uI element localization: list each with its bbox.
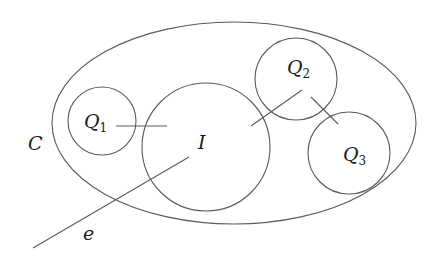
label-q2: Q2	[287, 56, 310, 81]
circle-q2	[255, 38, 337, 120]
label-q1-main: Q	[84, 110, 100, 132]
label-e: e	[83, 222, 94, 244]
line-e	[33, 157, 189, 248]
label-c: C	[28, 132, 43, 154]
label-q2-main: Q	[287, 56, 303, 78]
label-i: I	[197, 131, 206, 153]
set-diagram: C Q1 I Q2 Q3 e	[0, 0, 438, 260]
label-q1: Q1	[84, 110, 107, 135]
label-q2-subscript: 2	[303, 67, 311, 81]
label-q3: Q3	[343, 143, 366, 168]
label-q3-main: Q	[343, 143, 359, 165]
circle-i	[142, 83, 270, 211]
label-q1-subscript: 1	[100, 121, 108, 135]
label-q3-subscript: 3	[359, 154, 367, 168]
